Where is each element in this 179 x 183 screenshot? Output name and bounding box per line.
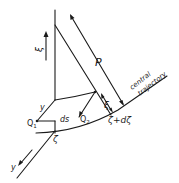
q1-point xyxy=(36,120,39,123)
xi-axis-label: ξ xyxy=(34,46,44,53)
xi-small-label: ξ xyxy=(103,100,110,110)
p-arrowhead-top-icon xyxy=(70,14,75,20)
y-upper-label: y xyxy=(39,103,45,112)
upper-curve xyxy=(55,92,95,100)
q1-label: Q1 xyxy=(27,119,37,129)
zeta-label: ζ xyxy=(52,134,59,144)
p-label: P xyxy=(95,56,102,69)
y-lower-label: y xyxy=(10,163,16,172)
diagram-canvas: ξ P central trajectory ξ y Q1 ds Q2 ζ ζ+… xyxy=(0,0,179,183)
p-arrowhead-bottom-icon xyxy=(119,100,124,106)
ds-label: ds xyxy=(60,115,69,124)
q2-label: Q2 xyxy=(80,115,90,125)
zeta-dzeta-label: ζ+dζ xyxy=(107,115,132,125)
y-lower-axis xyxy=(17,131,55,178)
upper-point xyxy=(94,91,96,93)
xi-arrowhead-icon xyxy=(44,31,49,37)
